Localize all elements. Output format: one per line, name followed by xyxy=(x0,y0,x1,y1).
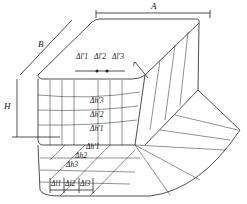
flange-label-1: Δh′1 xyxy=(86,143,100,151)
wall-label-3: Δh′3 xyxy=(90,97,104,105)
wall-label-2: Δh′2 xyxy=(90,111,104,119)
dimension-a-label: A xyxy=(151,2,157,11)
bottom-label-2: Δl2 xyxy=(65,180,75,188)
dimension-h-label: H xyxy=(4,102,11,111)
top-label-1: Δl′1 xyxy=(76,53,88,61)
bottom-label-3: Δl3 xyxy=(80,180,90,188)
flange-label-3: Δh3 xyxy=(66,161,78,169)
top-label-2: Δl′2 xyxy=(94,53,106,61)
flange-label-2: Δh2 xyxy=(75,152,87,160)
top-label-3: Δl′3 xyxy=(112,53,124,61)
wall-label-1: Δh′1 xyxy=(90,125,104,133)
bottom-label-1: Δl1 xyxy=(51,180,61,188)
deep-drawing-box-diagram xyxy=(0,0,247,204)
dimension-b-label: B xyxy=(38,40,44,49)
radius-label: r xyxy=(133,60,136,68)
